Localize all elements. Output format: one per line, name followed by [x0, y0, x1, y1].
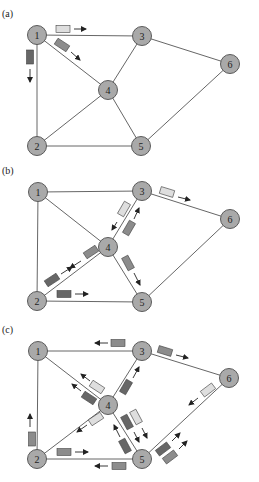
node-label: 2	[35, 454, 40, 465]
packet-medium	[157, 346, 172, 357]
edge-1-2	[37, 351, 38, 459]
arrow-icon	[81, 374, 90, 381]
packet-dark	[44, 273, 60, 286]
edge-2-5	[37, 301, 142, 302]
node-3: 3	[133, 27, 152, 46]
node-2: 2	[28, 292, 47, 311]
arrow-icon	[133, 367, 139, 378]
packet-light	[159, 187, 174, 198]
node-label: 5	[140, 297, 145, 308]
node-label: 6	[228, 214, 233, 225]
arrow-icon	[172, 433, 180, 441]
edge-4-2	[37, 405, 108, 459]
packet-dark	[27, 50, 34, 64]
node-2: 2	[28, 450, 47, 469]
packet-dark	[119, 379, 132, 395]
node-label: 6	[228, 59, 233, 70]
node-label: 4	[106, 242, 111, 253]
arrow-icon	[142, 428, 147, 438]
edge-1-3	[37, 35, 142, 36]
edge-3-6	[142, 36, 230, 64]
edges	[37, 351, 229, 459]
edge-1-2	[37, 192, 38, 301]
arrow-icon	[134, 273, 140, 285]
node-4: 4	[99, 238, 118, 257]
node-label: 6	[227, 373, 232, 384]
edge-1-3	[38, 191, 142, 192]
edge-3-6	[142, 191, 230, 219]
node-label: 3	[140, 346, 145, 357]
packet-medium	[83, 245, 99, 258]
packet-medium	[112, 463, 126, 470]
edge-4-2	[37, 247, 108, 301]
node-3: 3	[133, 342, 152, 361]
panel-label: (a)	[2, 8, 13, 20]
node-4: 4	[99, 81, 118, 100]
packets	[44, 187, 190, 298]
arrow-icon	[176, 355, 188, 358]
node-1: 1	[28, 26, 47, 45]
edge-1-4	[38, 192, 108, 247]
packet-medium	[29, 432, 36, 446]
panel-label: (c)	[2, 324, 13, 336]
arrow-icon	[71, 52, 80, 60]
node-label: 1	[36, 346, 41, 357]
arrow-icon	[77, 425, 87, 432]
node-2: 2	[28, 137, 47, 156]
packet-light	[200, 383, 215, 397]
edge-1-4	[37, 35, 108, 90]
packet-medium	[57, 449, 71, 456]
node-label: 3	[140, 31, 145, 42]
packet-medium	[122, 220, 135, 236]
packet-light	[89, 380, 105, 393]
node-label: 5	[140, 454, 145, 465]
edges	[37, 191, 230, 302]
edge-4-2	[37, 90, 108, 146]
node-label: 4	[106, 85, 111, 96]
node-label: 1	[36, 187, 41, 198]
panel-label: (b)	[2, 165, 14, 177]
node-5: 5	[133, 450, 152, 469]
node-6: 6	[221, 55, 240, 74]
node-1: 1	[29, 183, 48, 202]
node-label: 3	[140, 186, 145, 197]
node-label: 5	[139, 141, 144, 152]
node-5: 5	[132, 137, 151, 156]
edge-5-6	[141, 64, 230, 146]
arrow-icon	[114, 425, 120, 437]
arrow-icon	[134, 432, 139, 442]
packet-light	[56, 26, 70, 33]
node-5: 5	[133, 293, 152, 312]
arrow-icon	[178, 197, 190, 200]
edge-1-4	[38, 351, 108, 405]
arrow-icon	[179, 441, 187, 449]
panel-c: (c) 123456	[2, 324, 239, 470]
panel-b: (b) 123456	[2, 165, 240, 312]
node-label: 1	[35, 30, 40, 41]
network-diagram: (a) 123456 (b) 123456 (c) 123456	[0, 0, 259, 482]
node-6: 6	[220, 369, 239, 388]
node-1: 1	[29, 342, 48, 361]
arrow-icon	[61, 267, 72, 274]
edge-5-6	[142, 378, 229, 459]
packet-medium	[111, 340, 125, 347]
node-4: 4	[99, 396, 118, 415]
edge-5-6	[142, 219, 230, 302]
node-label: 2	[35, 141, 40, 152]
packets	[29, 340, 216, 470]
packet-light	[117, 201, 130, 217]
node-label: 2	[35, 296, 40, 307]
node-3: 3	[133, 182, 152, 201]
edge-3-6	[142, 351, 229, 378]
packet-dark	[81, 391, 97, 404]
packet-dark	[57, 291, 71, 298]
arrow-icon	[112, 222, 117, 230]
node-label: 4	[106, 400, 111, 411]
arrow-icon	[72, 384, 81, 391]
arrow-icon	[134, 208, 139, 219]
panel-a: (a) 123456	[2, 8, 240, 156]
node-6: 6	[221, 210, 240, 229]
arrow-icon	[189, 398, 198, 405]
packet-dark	[119, 438, 132, 454]
packet-medium	[122, 255, 135, 271]
